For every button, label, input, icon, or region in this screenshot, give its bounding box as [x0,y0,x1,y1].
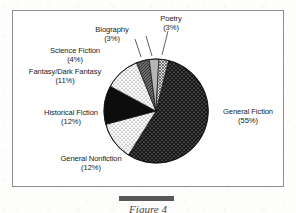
pie-label-science-fiction-name: Science Fiction [50,46,100,55]
pie-label-biography-percent: (3%) [81,34,143,43]
pie-label-fantasy-dark-fantasy-percent: (11%) [15,76,115,85]
pie-label-fantasy-dark-fantasy-name: Fantasy/Dark Fantasy [29,67,101,76]
pie-label-poetry: Poetry (3%) [143,14,199,33]
pie-label-science-fiction: Science Fiction (4%) [34,46,116,65]
pie-label-historical-fiction-percent: (12%) [29,117,113,126]
figure-frame: Poetry (3%) Biography (3%) Science Ficti… [12,10,284,187]
leader-line-biography [146,36,152,56]
pie-label-biography-name: Biography [95,25,128,34]
pie-label-poetry-percent: (3%) [143,23,199,32]
pie-label-science-fiction-percent: (4%) [34,55,116,64]
pie-label-biography: Biography (3%) [81,25,143,44]
pie-label-poetry-name: Poetry [160,14,181,23]
pie-label-general-fiction: General Fiction (55%) [211,107,285,126]
caption-redaction-bar [119,196,174,201]
pie-label-general-nonfiction: General Nonfiction (12%) [45,154,137,173]
pie-label-general-fiction-percent: (55%) [211,116,285,125]
pie-label-general-nonfiction-name: General Nonfiction [60,154,121,163]
pie-label-historical-fiction-name: Historical Fiction [44,108,98,117]
pie-label-general-nonfiction-percent: (12%) [45,163,137,172]
pie-label-fantasy-dark-fantasy: Fantasy/Dark Fantasy (11%) [15,67,115,86]
pie-label-general-fiction-name: General Fiction [223,107,273,116]
figure-caption: Figure 4 [0,203,296,213]
leader-line-poetry [162,31,168,55]
pie-label-historical-fiction: Historical Fiction (12%) [29,108,113,127]
